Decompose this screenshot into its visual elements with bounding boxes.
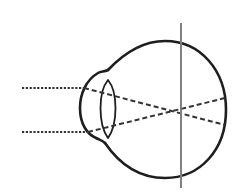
eye-diagram xyxy=(0,0,250,196)
ray-top-dashed xyxy=(84,88,225,125)
ray-bottom-dashed xyxy=(88,98,225,132)
lens-ellipse xyxy=(101,80,116,138)
eye-diagram-svg xyxy=(0,0,250,196)
